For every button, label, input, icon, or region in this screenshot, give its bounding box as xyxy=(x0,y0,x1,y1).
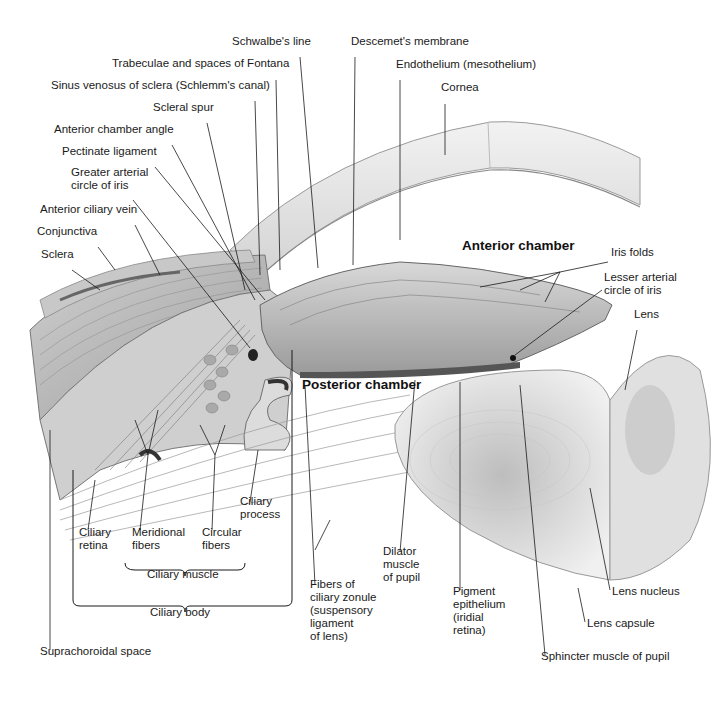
label-ciliary-body: Ciliary body xyxy=(150,606,210,619)
label-lesser-arterial-circle: Lesser arterial circle of iris xyxy=(604,271,677,297)
label-pigment-epithelium: Pigment epithelium (iridial retina) xyxy=(453,585,505,637)
label-anterior-chamber: Anterior chamber xyxy=(462,239,575,252)
eye-anatomy-diagram: Schwalbe's lineDescemet's membraneTrabec… xyxy=(0,0,717,713)
label-descemets-membrane: Descemet's membrane xyxy=(351,35,469,48)
label-conjunctiva: Conjunctiva xyxy=(37,225,97,238)
label-suprachoroidal-space: Suprachoroidal space xyxy=(40,645,151,658)
label-posterior-chamber: Posterior chamber xyxy=(302,378,421,391)
label-anterior-chamber-angle: Anterior chamber angle xyxy=(54,123,174,136)
label-sinus-venosus: Sinus venosus of sclera (Schlemm's canal… xyxy=(51,79,270,92)
cornea-shape xyxy=(230,122,640,272)
label-lens: Lens xyxy=(634,308,659,321)
lens-shape xyxy=(395,355,711,580)
label-ciliary-retina: Ciliary retina xyxy=(79,526,111,552)
label-scleral-spur: Scleral spur xyxy=(153,101,214,114)
label-endothelium: Endothelium (mesothelium) xyxy=(396,58,536,71)
label-circular-fibers: Circular fibers xyxy=(202,526,242,552)
label-fibers-ciliary-zonule: Fibers of ciliary zonule (suspensory lig… xyxy=(310,578,376,643)
label-ciliary-muscle: Ciliary muscle xyxy=(147,568,219,581)
label-schwalbes-line: Schwalbe's line xyxy=(232,35,311,48)
label-sphincter-muscle: Sphincter muscle of pupil xyxy=(541,650,669,663)
label-lens-capsule: Lens capsule xyxy=(587,617,655,630)
label-meridional-fibers: Meridional fibers xyxy=(132,526,185,552)
label-sclera: Sclera xyxy=(41,248,74,261)
label-dilator-muscle: Dilator muscle of pupil xyxy=(383,545,420,584)
label-greater-arterial-circle: Greater arterial circle of iris xyxy=(71,166,148,192)
label-lens-nucleus: Lens nucleus xyxy=(612,585,680,598)
label-pectinate-ligament: Pectinate ligament xyxy=(62,145,157,158)
label-ciliary-process: Ciliary process xyxy=(240,495,280,521)
iris-shape xyxy=(260,262,612,378)
label-trabeculae-fontana: Trabeculae and spaces of Fontana xyxy=(112,57,289,70)
label-cornea: Cornea xyxy=(441,81,479,94)
label-anterior-ciliary-vein: Anterior ciliary vein xyxy=(40,203,137,216)
label-iris-folds: Iris folds xyxy=(611,246,654,259)
